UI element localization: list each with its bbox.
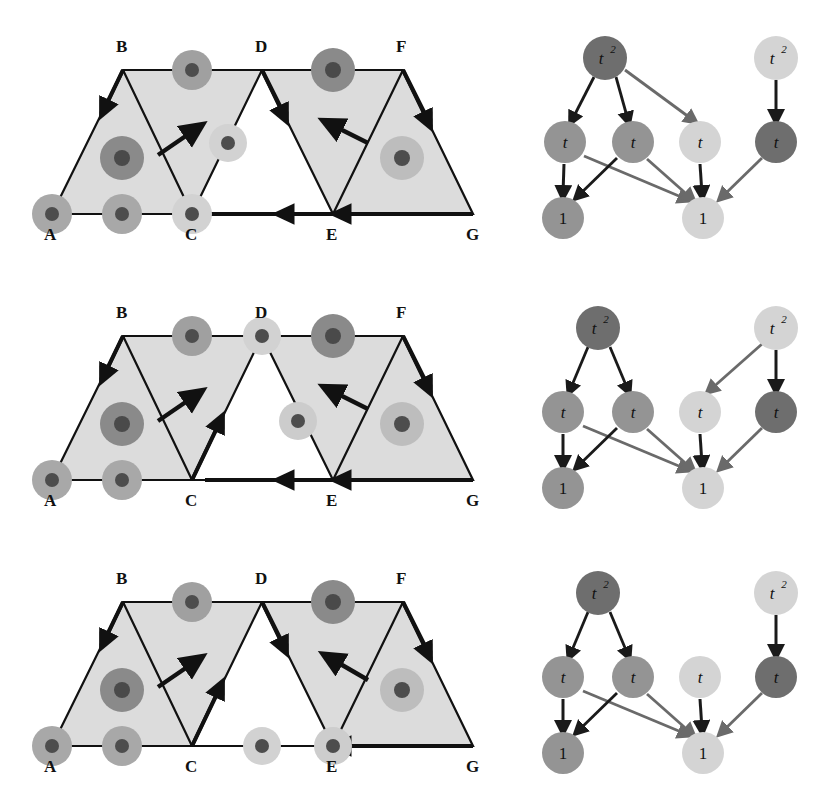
vertex-label-E: E xyxy=(326,491,337,510)
graph-node-one-left[interactable]: 1 xyxy=(542,732,584,774)
vertex-label-D: D xyxy=(255,303,267,322)
graph-node-t-3[interactable]: t xyxy=(679,656,721,698)
graph-edge-n3-n6 xyxy=(578,693,617,731)
strip-panel-row-1: A B C D E F G xyxy=(0,0,520,266)
dot-edge-BD xyxy=(172,582,212,622)
graph-node-label: 1 xyxy=(699,479,708,498)
graph-node-t-2[interactable]: t xyxy=(612,391,654,433)
graph-node-t2-dark[interactable]: t 2 xyxy=(576,571,620,615)
dot-edge-AC xyxy=(102,726,142,766)
graph-node-t-3[interactable]: t xyxy=(679,391,721,433)
graph-node-one-right[interactable]: 1 xyxy=(682,197,724,239)
graph-panel-row-3: t 2 t 2 t t xyxy=(520,532,831,798)
vertex-label-A: A xyxy=(44,225,57,244)
graph-edge-n0-n2 xyxy=(570,612,588,655)
graph-svg-row-2: t 2 t 2 t t xyxy=(520,266,831,532)
vertex-label-G: G xyxy=(466,225,479,244)
vertex-label-C: C xyxy=(185,225,197,244)
graph-edge-n0-n2 xyxy=(570,347,588,390)
dot-edge-BD xyxy=(172,50,212,90)
graph-node-t2-light[interactable]: t 2 xyxy=(754,306,798,350)
dot-interior-EFG xyxy=(380,402,424,446)
graph-node-sup: 2 xyxy=(781,43,787,55)
graph-panel-row-2: t 2 t 2 t t xyxy=(520,266,831,532)
vertex-label-F: F xyxy=(396,303,406,322)
vertex-label-A: A xyxy=(44,757,57,776)
graph-node-label: 1 xyxy=(699,744,708,763)
graph-edges xyxy=(563,344,776,469)
graph-node-t-2[interactable]: t xyxy=(612,121,654,163)
vertex-label-C: C xyxy=(185,757,197,776)
figure-row-1: A B C D E F G xyxy=(0,0,831,266)
vertex-label-F: F xyxy=(396,37,406,56)
graph-node-t-1[interactable]: t xyxy=(542,656,584,698)
graph-node-one-right[interactable]: 1 xyxy=(682,467,724,509)
dot-edge-AC xyxy=(102,194,142,234)
graph-node-one-left[interactable]: 1 xyxy=(542,467,584,509)
graph-svg-row-1: t 2 t 2 t t xyxy=(520,0,831,266)
graph-node-sup: 2 xyxy=(781,313,787,325)
graph-edge-n0-n2 xyxy=(572,77,594,120)
graph-node-t-2[interactable]: t xyxy=(612,656,654,698)
dot-edge-CD xyxy=(209,124,247,162)
graph-node-label: 1 xyxy=(699,209,708,228)
graph-node-sup: 2 xyxy=(603,578,609,590)
vertex-label-D: D xyxy=(255,37,267,56)
graph-edge-n0-n4 xyxy=(625,70,693,120)
figure-root: A B C D E F G xyxy=(0,0,831,798)
vertex-label-E: E xyxy=(326,225,337,244)
graph-panel-row-1: t 2 t 2 t t xyxy=(520,0,831,266)
vertex-label-G: G xyxy=(466,757,479,776)
dot-edge-DF xyxy=(311,314,355,358)
dot-edge-CE xyxy=(243,727,281,765)
graph-svg-row-3: t 2 t 2 t t xyxy=(520,532,831,798)
graph-node-t2-dark[interactable]: t 2 xyxy=(576,306,620,350)
graph-edge-n0-n3 xyxy=(616,77,628,120)
graph-node-sup: 2 xyxy=(603,313,609,325)
graph-node-t-4[interactable]: t xyxy=(755,656,797,698)
graph-edge-n4-n7 xyxy=(700,164,702,194)
graph-edge-n2-n6 xyxy=(563,164,564,194)
dot-edge-AC xyxy=(102,460,142,500)
dot-interior-EFG xyxy=(380,136,424,180)
vertex-label-B: B xyxy=(116,303,127,322)
strip-svg-row-3: A B C D E F G xyxy=(0,532,520,798)
vertex-label-D: D xyxy=(255,569,267,588)
vertex-label-B: B xyxy=(116,37,127,56)
graph-node-t2-dark[interactable]: t 2 xyxy=(583,36,627,80)
graph-edge-n3-n6 xyxy=(578,158,617,196)
vertex-label-E: E xyxy=(326,757,337,776)
vertex-label-A: A xyxy=(44,491,57,510)
graph-edge-n3-n6 xyxy=(578,428,617,466)
strip-svg-row-1: A B C D E F G xyxy=(0,0,520,266)
graph-node-t-3[interactable]: t xyxy=(679,121,721,163)
dot-edge-DF xyxy=(311,580,355,624)
graph-edge-n4-n7 xyxy=(700,434,702,464)
strip-panel-row-2: A B C D E F G xyxy=(0,266,520,532)
dot-at-D xyxy=(243,317,281,355)
graph-node-t2-light[interactable]: t 2 xyxy=(754,571,798,615)
graph-nodes: t 2 t 2 t t xyxy=(542,571,798,774)
dot-interior-DEF xyxy=(279,402,317,440)
graph-node-t2-light[interactable]: t 2 xyxy=(754,36,798,80)
dot-interior-EFG xyxy=(380,668,424,712)
graph-nodes: t 2 t 2 t t xyxy=(542,306,798,509)
graph-node-t-1[interactable]: t xyxy=(542,391,584,433)
dot-edge-BD xyxy=(172,316,212,356)
strip-panel-row-3: A B C D E F G xyxy=(0,532,520,798)
graph-edge-n5-n7 xyxy=(722,693,762,732)
graph-edge-n4-n7 xyxy=(700,699,702,729)
graph-node-label: 1 xyxy=(559,209,568,228)
graph-node-one-right[interactable]: 1 xyxy=(682,732,724,774)
graph-node-one-left[interactable]: 1 xyxy=(542,197,584,239)
graph-edge-n5-n7 xyxy=(722,428,762,467)
strip-svg-row-2: A B C D E F G xyxy=(0,266,520,532)
graph-edge-n5-n7 xyxy=(722,158,762,197)
graph-node-label: 1 xyxy=(559,744,568,763)
vertex-label-G: G xyxy=(466,491,479,510)
graph-edges xyxy=(563,612,776,734)
graph-node-t-1[interactable]: t xyxy=(544,121,586,163)
graph-edge-n0-n3 xyxy=(610,347,628,390)
graph-node-t-4[interactable]: t xyxy=(755,121,797,163)
graph-node-t-4[interactable]: t xyxy=(755,391,797,433)
